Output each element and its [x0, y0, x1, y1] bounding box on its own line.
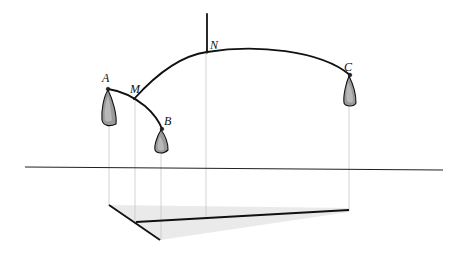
label-c: C	[344, 60, 353, 74]
point-a-marker	[106, 87, 110, 91]
floor-shadow	[109, 205, 349, 240]
mobile-diagram: A M B N C	[0, 0, 463, 254]
point-n-marker	[206, 51, 208, 53]
label-a: A	[101, 71, 110, 85]
weight-c	[344, 76, 356, 106]
weight-a	[102, 90, 116, 126]
weight-b	[155, 130, 168, 153]
arc-m-n-c	[134, 49, 350, 99]
label-m: M	[129, 82, 141, 96]
horizon-line	[25, 167, 443, 170]
label-n: N	[209, 38, 219, 52]
label-b: B	[164, 114, 172, 128]
